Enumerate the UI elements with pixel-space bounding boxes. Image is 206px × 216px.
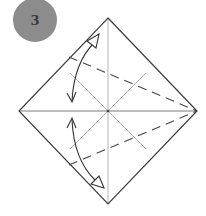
arrow-head-hollow-upper: [87, 34, 99, 48]
arrow-head-open-lower: [67, 118, 76, 128]
arrow-head-open-upper: [67, 92, 76, 102]
center-point: [107, 110, 110, 113]
valley-fold-lower: [69, 111, 197, 165]
fold-diagram: [0, 0, 206, 216]
valley-fold-upper: [69, 57, 197, 111]
arrow-shaft-lower: [72, 120, 95, 180]
